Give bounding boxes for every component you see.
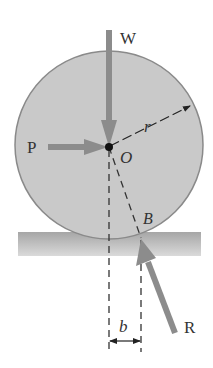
offset-label: b — [119, 317, 128, 336]
center-label: O — [120, 148, 132, 167]
radius-label: r — [144, 117, 151, 136]
wheel-diagram: W P O r B R b — [0, 0, 213, 368]
center-point — [105, 143, 113, 151]
reaction-label: R — [184, 318, 196, 337]
contact-point-label: B — [143, 210, 153, 227]
weight-label: W — [120, 29, 137, 48]
push-force-label: P — [27, 138, 36, 157]
